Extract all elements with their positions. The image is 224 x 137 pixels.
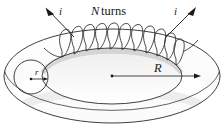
cross-section-circle (14, 60, 48, 94)
cross-section-group (14, 60, 48, 94)
current-arrow-right-line (166, 11, 192, 37)
toroid-figure: N turns i i R r (0, 0, 224, 137)
major-radius-label: R (153, 61, 162, 75)
toroid-svg: N turns i i R r (0, 0, 224, 137)
current-label-left: i (59, 5, 62, 17)
turns-word-label: turns (101, 4, 126, 18)
current-label-right: i (174, 5, 177, 17)
minor-radius-label: r (35, 67, 39, 77)
turns-symbol-label: N (90, 4, 100, 18)
